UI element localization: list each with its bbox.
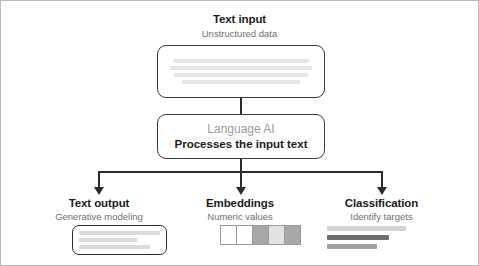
embeddings-title: Embeddings	[180, 197, 300, 209]
connector-branch-text-output	[98, 171, 100, 188]
output-line	[79, 238, 137, 242]
embedding-cell	[269, 226, 285, 244]
placeholder-line	[173, 59, 309, 63]
embedding-cell	[285, 226, 300, 244]
embedding-cell	[237, 226, 253, 244]
classification-bar	[327, 226, 406, 231]
text-input-subtitle: Unstructured data	[1, 28, 478, 39]
language-ai-box: Language AI Processes the input text	[157, 114, 325, 159]
connector-branch-embeddings	[240, 171, 242, 188]
classification-title: Classification	[319, 197, 444, 209]
text-input-placeholder-lines	[158, 46, 324, 97]
diagram-canvas: Text input Unstructured data Language AI…	[0, 0, 479, 266]
classification-bar	[327, 235, 389, 240]
output-line	[79, 231, 160, 235]
embeddings-subtitle: Numeric values	[180, 211, 300, 222]
placeholder-line	[182, 80, 300, 84]
embedding-cell	[253, 226, 269, 244]
classification-bar	[327, 244, 377, 249]
text-input-title: Text input	[1, 13, 478, 25]
text-input-box	[157, 45, 325, 98]
arrowhead-text-output	[94, 187, 104, 195]
placeholder-line	[170, 66, 312, 70]
classification-subtitle: Identify targets	[319, 211, 444, 222]
classification-visual	[327, 226, 406, 249]
connector-branch-classification	[381, 171, 383, 188]
text-output-visual	[72, 225, 167, 255]
language-ai-description: Processes the input text	[175, 137, 308, 152]
placeholder-line	[174, 73, 307, 77]
embedding-cell	[221, 226, 237, 244]
connector-input-to-model	[240, 98, 242, 115]
arrowhead-embeddings	[236, 187, 246, 195]
text-output-title: Text output	[29, 197, 169, 209]
output-line	[79, 245, 150, 249]
arrowhead-classification	[377, 187, 387, 195]
embeddings-visual	[220, 225, 301, 245]
text-output-subtitle: Generative modeling	[29, 211, 169, 222]
language-ai-label: Language AI	[207, 122, 274, 137]
